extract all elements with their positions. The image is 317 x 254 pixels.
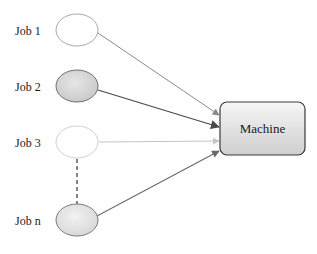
arrow-job1-to-machine bbox=[98, 33, 219, 115]
job3-label: Job 3 bbox=[15, 136, 41, 150]
arrow-job2-to-machine bbox=[98, 90, 219, 127]
job2-label: Job 2 bbox=[15, 80, 41, 94]
job2-node bbox=[56, 70, 98, 102]
machine-label: Machine bbox=[240, 121, 286, 136]
jobn-label: Job n bbox=[15, 214, 41, 228]
job1-node bbox=[56, 14, 98, 46]
job-machine-diagram: Job 1 Job 2 Job 3 Job n Machine bbox=[0, 0, 317, 254]
arrow-jobn-to-machine bbox=[97, 151, 219, 216]
job1-label: Job 1 bbox=[15, 24, 41, 38]
jobn-node bbox=[56, 204, 98, 236]
arrow-job3-to-machine bbox=[99, 141, 219, 142]
job3-node bbox=[56, 126, 98, 158]
